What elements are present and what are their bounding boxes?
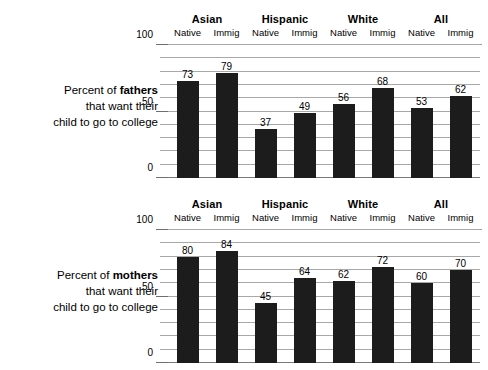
bar[interactable]: 68	[372, 88, 394, 178]
group-label: Asian	[192, 12, 222, 26]
bar[interactable]: 72	[372, 267, 394, 363]
caption-line-1: Percent of fathers	[8, 82, 158, 98]
group-label: Asian	[192, 197, 222, 211]
caption-line-1: Percent of mothers	[8, 267, 158, 283]
bar-series-mothers: 8084456462726070	[168, 230, 480, 363]
y-axis-tick	[160, 124, 168, 125]
bar-slot: 56	[324, 45, 363, 178]
chart-caption-fathers: Percent of fathers that want their child…	[8, 82, 158, 130]
sub-label-native: Native	[324, 211, 363, 224]
bar[interactable]: 45	[255, 303, 277, 363]
bar[interactable]: 37	[255, 129, 277, 178]
group-header-all: All Native Immig	[402, 197, 480, 229]
bar-value-label: 80	[182, 245, 193, 256]
bar[interactable]: 62	[450, 96, 472, 178]
bar[interactable]: 49	[294, 113, 316, 178]
y-axis-tick	[160, 349, 168, 350]
y-axis-tick	[156, 229, 168, 230]
bar-value-label: 84	[221, 239, 232, 250]
sub-label-immig: Immig	[207, 26, 246, 39]
y-axis-tick	[156, 44, 168, 45]
bar[interactable]: 70	[450, 270, 472, 363]
caption-emphasis: fathers	[120, 84, 158, 96]
bar-group-white: 6272	[324, 230, 402, 363]
bar[interactable]: 80	[177, 257, 199, 363]
caption-line-2: that want their	[8, 283, 158, 299]
y-axis-tick	[156, 296, 168, 297]
group-label: All	[434, 12, 448, 26]
sub-label-immig: Immig	[285, 26, 324, 39]
caption-line-3: child to go to college	[8, 114, 158, 130]
plot-area-mothers: 050100 8084456462726070	[168, 230, 480, 363]
bar-value-label: 56	[338, 92, 349, 103]
group-header-asian: Asian Native Immig	[168, 12, 246, 44]
y-axis-tick	[160, 164, 168, 165]
bar-value-label: 79	[221, 61, 232, 72]
bar-value-label: 73	[182, 69, 193, 80]
y-axis-tick	[160, 57, 168, 58]
y-axis-tick	[160, 242, 168, 243]
bar[interactable]: 64	[294, 278, 316, 363]
bar-group-hispanic: 3749	[246, 45, 324, 178]
group-label: All	[434, 197, 448, 211]
group-label: White	[348, 12, 378, 26]
bar[interactable]: 53	[411, 108, 433, 178]
bar[interactable]: 56	[333, 104, 355, 178]
sub-label-immig: Immig	[441, 211, 480, 224]
bar[interactable]: 84	[216, 251, 238, 363]
bar-slot: 70	[441, 230, 480, 363]
group-label: Hispanic	[262, 12, 309, 26]
y-axis-tick	[160, 137, 168, 138]
bar-group-all: 6070	[402, 230, 480, 363]
bar-value-label: 53	[416, 96, 427, 107]
bar-group-white: 5668	[324, 45, 402, 178]
plot-area-fathers: 050100 7379374956685362	[168, 45, 480, 178]
group-header-hispanic: Hispanic Native Immig	[246, 12, 324, 44]
sub-label-native: Native	[402, 26, 441, 39]
group-headers-fathers: Asian Native Immig Hispanic Native Immig…	[168, 12, 480, 44]
bar-slot: 60	[402, 230, 441, 363]
sub-label-immig: Immig	[441, 26, 480, 39]
sub-label-immig: Immig	[363, 211, 402, 224]
group-header-hispanic: Hispanic Native Immig	[246, 197, 324, 229]
bar-value-label: 62	[455, 84, 466, 95]
y-axis-tick	[160, 322, 168, 323]
bar-slot: 49	[285, 45, 324, 178]
bar-series-fathers: 7379374956685362	[168, 45, 480, 178]
y-axis-tick	[156, 111, 168, 112]
y-axis-tick	[160, 84, 168, 85]
bar-slot: 45	[246, 230, 285, 363]
chart-panel-fathers: Percent of fathers that want their child…	[0, 0, 488, 185]
sub-label-native: Native	[246, 26, 285, 39]
bar[interactable]: 60	[411, 283, 433, 363]
y-axis-label: 0	[147, 163, 153, 173]
bar-value-label: 45	[260, 291, 271, 302]
caption-prefix: Percent of	[57, 269, 113, 281]
bar[interactable]: 62	[333, 281, 355, 363]
y-axis-tick	[156, 362, 168, 363]
group-header-white: White Native Immig	[324, 197, 402, 229]
group-label: Hispanic	[262, 197, 309, 211]
group-label: White	[348, 197, 378, 211]
sub-label-immig: Immig	[363, 26, 402, 39]
bar-slot: 62	[324, 230, 363, 363]
bar-value-label: 70	[455, 258, 466, 269]
bar[interactable]: 79	[216, 73, 238, 178]
bar-value-label: 72	[377, 255, 388, 266]
y-axis-tick	[160, 309, 168, 310]
sub-label-native: Native	[168, 211, 207, 224]
bar-slot: 79	[207, 45, 246, 178]
y-axis-tick	[160, 71, 168, 72]
sub-label-immig: Immig	[207, 211, 246, 224]
y-axis-tick	[160, 269, 168, 270]
bar-group-all: 5362	[402, 45, 480, 178]
bar-slot: 72	[363, 230, 402, 363]
bar-group-asian: 7379	[168, 45, 246, 178]
group-header-white: White Native Immig	[324, 12, 402, 44]
chart-panel-mothers: Percent of mothers that want their child…	[0, 185, 488, 370]
bar-value-label: 37	[260, 117, 271, 128]
caption-line-3: child to go to college	[8, 299, 158, 315]
bar-slot: 68	[363, 45, 402, 178]
bar[interactable]: 73	[177, 81, 199, 178]
sub-label-native: Native	[402, 211, 441, 224]
